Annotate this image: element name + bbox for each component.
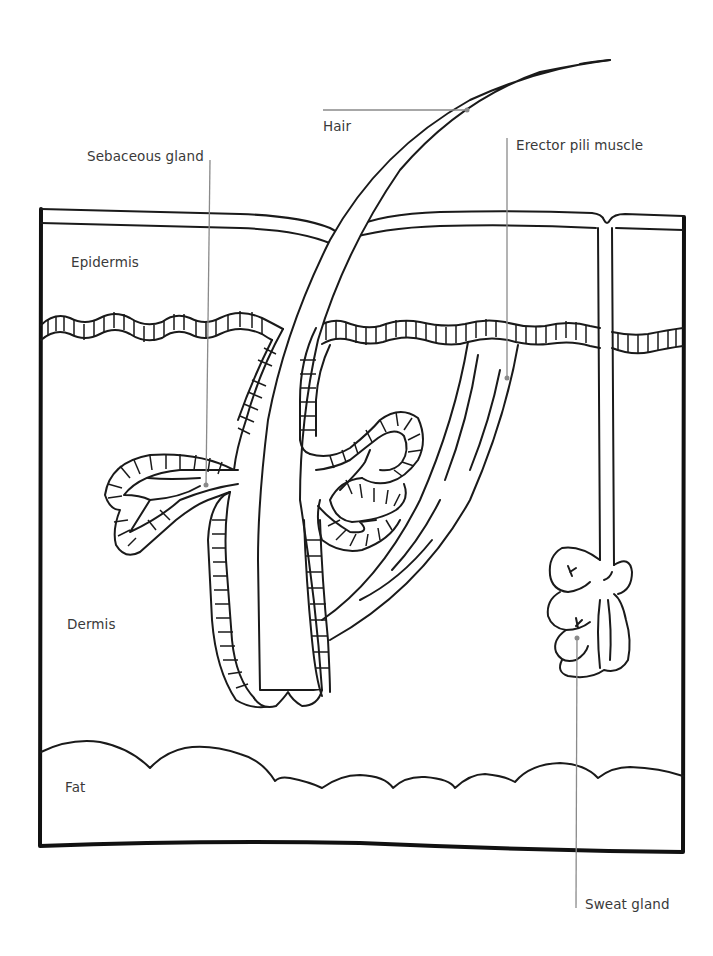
sweat-gland-leader-line [576, 638, 577, 908]
sebaceous-gland-anchor-dot [204, 483, 209, 488]
epidermis-label: Epidermis [71, 254, 139, 270]
erector-pili-muscle-label: Erector pili muscle [516, 137, 643, 153]
sebaceous-gland-right [310, 412, 423, 551]
erector-pili-anchor-dot [505, 376, 510, 381]
sweat-gland-label: Sweat gland [585, 896, 670, 912]
sebaceous-gland-left [105, 454, 238, 555]
dermis-label: Dermis [67, 616, 116, 632]
epidermal-ridge-band [41, 311, 683, 354]
fat-label: Fat [65, 779, 85, 795]
fat-layer-boundary [41, 741, 683, 788]
hair-label: Hair [323, 118, 351, 134]
hair-anchor-dot [465, 108, 470, 113]
sebaceous-gland-label: Sebaceous gland [87, 148, 204, 164]
hair-shaft [258, 60, 610, 690]
sweat-gland-anchor-dot [575, 636, 580, 641]
sweat-gland [548, 228, 632, 677]
